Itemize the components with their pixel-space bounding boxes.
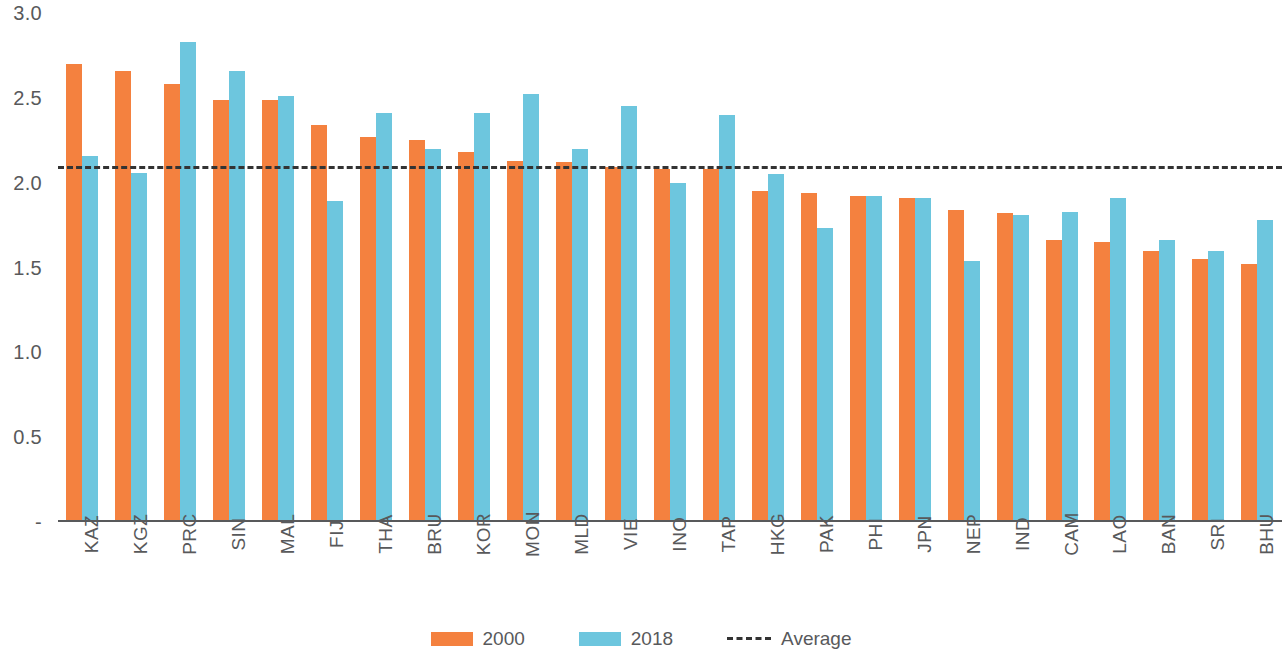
bar-2000	[850, 196, 866, 522]
bar-2000	[311, 125, 327, 522]
x-axis-label-sin: SIN	[229, 517, 248, 550]
bar-2000	[360, 137, 376, 522]
x-axis-label-cell: INO	[645, 530, 694, 618]
y-axis-tick: 1.5	[0, 258, 42, 278]
bar-2018	[572, 149, 588, 522]
bar-2018	[1208, 251, 1224, 522]
bar-group	[694, 8, 743, 522]
x-axis-label-cell: CAM	[1037, 530, 1086, 618]
bar-2018	[131, 173, 147, 523]
y-axis-tick: 3.0	[0, 3, 42, 23]
x-axis-label-cell: KAZ	[58, 530, 107, 618]
bar-2000	[801, 193, 817, 522]
bar-group	[1135, 8, 1184, 522]
x-axis-label-phi: PHI	[866, 517, 885, 550]
x-axis-label-pak: PAK	[817, 515, 836, 553]
bar-2018	[425, 149, 441, 522]
x-axis-label-ban: BAN	[1159, 514, 1178, 555]
chart-legend: 2000 2018 Average	[0, 622, 1282, 655]
x-axis-label-cell: KGZ	[107, 530, 156, 618]
legend-label-average: Average	[781, 629, 851, 648]
bar-2018	[964, 261, 980, 522]
bar-group	[1184, 8, 1233, 522]
bar-2018	[523, 94, 539, 522]
bar-group	[1233, 8, 1282, 522]
x-axis-label-cell: MON	[499, 530, 548, 618]
x-axis-label-mal: MAL	[278, 514, 297, 555]
bar-2000	[654, 169, 670, 522]
x-axis-label-ind: IND	[1013, 517, 1032, 551]
bar-2018	[327, 201, 343, 522]
x-axis-label-cell: BAN	[1135, 530, 1184, 618]
bar-group	[450, 8, 499, 522]
bar-2000	[458, 152, 474, 522]
x-axis-label-mon: MON	[523, 511, 542, 557]
x-axis-label-cell: BRU	[401, 530, 450, 618]
x-axis-label-cell: JPN	[890, 530, 939, 618]
y-axis-tick: 2.0	[0, 173, 42, 193]
x-axis-label-cam: CAM	[1062, 512, 1081, 556]
x-axis-labels: KAZKGZPRCSINMALFIJTHABRUKORMONMLDVIEINOT…	[58, 530, 1282, 618]
x-axis-label-cell: TAP	[694, 530, 743, 618]
x-axis-label-tha: THA	[376, 514, 395, 554]
x-axis-label-cell: SIN	[205, 530, 254, 618]
x-axis-label-cell: PRC	[156, 530, 205, 618]
x-axis-label-sri: SRI	[1208, 517, 1227, 550]
x-axis-label-jpn: JPN	[915, 515, 934, 552]
x-axis-label-hkg: HKG	[768, 513, 787, 556]
legend-item-average: Average	[727, 629, 851, 648]
x-axis-label-kgz: KGZ	[131, 514, 150, 555]
bar-2000	[605, 167, 621, 522]
dashed-line-swatch	[727, 637, 771, 640]
bar-2018	[768, 174, 784, 522]
bar-group	[58, 8, 107, 522]
bar-2018	[82, 156, 98, 522]
bar-group	[548, 8, 597, 522]
x-axis-label-kor: KOR	[474, 513, 493, 556]
x-axis-label-vie: VIE	[621, 518, 640, 550]
bar-2000	[752, 191, 768, 522]
x-axis-label-mld: MLD	[572, 513, 591, 555]
orange-swatch	[431, 632, 473, 646]
bar-chart: 3.02.52.01.51.00.5- KAZKGZPRCSINMALFIJTH…	[0, 0, 1282, 655]
x-axis-label-fij: FIJ	[327, 520, 346, 548]
x-axis-label-cell: KOR	[450, 530, 499, 618]
bar-2018	[278, 96, 294, 522]
bar-2000	[507, 161, 523, 522]
x-axis-label-cell: PHI	[841, 530, 890, 618]
bar-2000	[1241, 264, 1257, 522]
bar-2000	[66, 64, 82, 522]
bar-group	[107, 8, 156, 522]
bar-group	[939, 8, 988, 522]
x-axis-label-cell: LAO	[1086, 530, 1135, 618]
bar-2000	[997, 213, 1013, 522]
bar-group	[303, 8, 352, 522]
bar-group	[1086, 8, 1135, 522]
bar-2000	[1192, 259, 1208, 522]
x-axis-label-tap: TAP	[719, 515, 738, 552]
bar-2018	[719, 115, 735, 522]
x-axis-label-ino: INO	[670, 516, 689, 551]
x-axis-label-cell: PAK	[792, 530, 841, 618]
bar-2018	[915, 198, 931, 522]
bar-group	[352, 8, 401, 522]
bar-2000	[409, 140, 425, 522]
bar-2000	[115, 71, 131, 522]
legend-item-2000: 2000	[431, 629, 525, 648]
y-axis: 3.02.52.01.51.00.5-	[0, 0, 58, 530]
bar-group	[743, 8, 792, 522]
x-axis-label-prc: PRC	[180, 513, 199, 555]
bar-group	[645, 8, 694, 522]
x-axis-label-bhu: BHU	[1257, 513, 1276, 555]
bar-group	[254, 8, 303, 522]
y-axis-tick: 1.0	[0, 342, 42, 362]
bar-2018	[180, 42, 196, 522]
bar-2000	[1046, 240, 1062, 522]
x-axis-label-cell: VIE	[596, 530, 645, 618]
bar-2018	[1159, 240, 1175, 522]
bar-2000	[948, 210, 964, 522]
bar-2018	[817, 228, 833, 522]
legend-label-2018: 2018	[631, 629, 673, 648]
x-axis-label-cell: MLD	[548, 530, 597, 618]
x-axis-label-cell: FIJ	[303, 530, 352, 618]
